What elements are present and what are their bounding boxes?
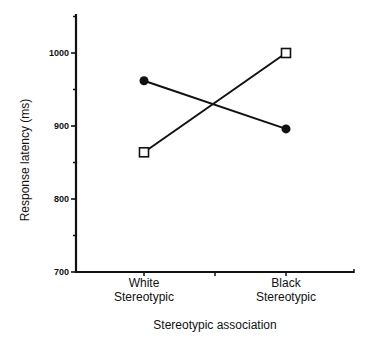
y-tick-label: 1000	[49, 48, 69, 58]
y-tick-label: 900	[54, 121, 69, 131]
filled-circle-marker	[282, 124, 291, 133]
line-chart-svg: 7008009001000WhiteStereotypicBlackStereo…	[0, 0, 374, 353]
y-tick-label: 700	[54, 267, 69, 277]
y-tick-label: 800	[54, 194, 69, 204]
open-square-marker	[140, 148, 149, 157]
x-category-label-line2: Stereotypic	[256, 290, 316, 304]
open-square-marker	[282, 49, 291, 58]
x-category-label-line1: Black	[271, 276, 301, 290]
x-axis-title: Stereotypic association	[153, 318, 276, 332]
series-layer	[140, 49, 291, 157]
series-line	[144, 53, 286, 152]
filled-circle-marker	[140, 76, 149, 85]
y-axis-title: Response latency (ms)	[18, 99, 32, 222]
x-category-label-line2: Stereotypic	[114, 290, 174, 304]
x-category-label-line1: White	[129, 276, 160, 290]
chart: 7008009001000WhiteStereotypicBlackStereo…	[0, 0, 374, 353]
series-line	[144, 81, 286, 129]
axes: 7008009001000WhiteStereotypicBlackStereo…	[49, 14, 354, 304]
